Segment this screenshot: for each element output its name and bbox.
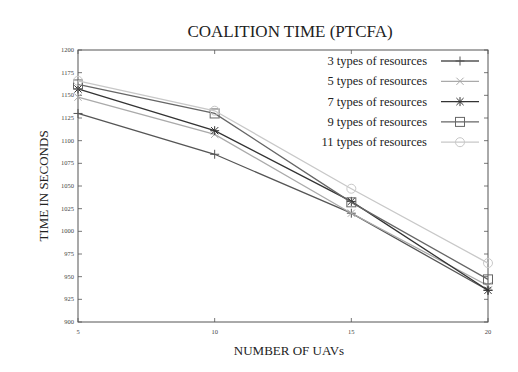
series-line	[74, 94, 491, 290]
plus-marker-icon	[456, 57, 465, 66]
y-tick-label: 1050	[61, 182, 74, 189]
series-line	[74, 80, 493, 284]
series-line	[74, 109, 493, 295]
series-line	[74, 76, 493, 267]
legend-item: 7 types of resources	[327, 95, 479, 109]
y-tick-label: 900	[64, 318, 74, 325]
y-tick-label: 925	[64, 295, 74, 302]
legend-label: 7 types of resources	[327, 95, 427, 109]
y-tick-label: 1175	[61, 69, 74, 76]
y-tick-label: 1125	[61, 114, 74, 121]
legend-item: 3 types of resources	[327, 54, 479, 68]
x-axis-ticks: 5101520	[76, 50, 491, 335]
y-axis-label: TIME IN SECONDS	[36, 130, 51, 241]
x-tick-label: 15	[348, 328, 355, 335]
y-tick-label: 1000	[61, 227, 74, 234]
line-chart: COALITION TIME (PTCFA) TIME IN SECONDS N…	[0, 0, 518, 372]
legend-label: 3 types of resources	[327, 54, 427, 68]
star-marker-icon	[456, 97, 465, 106]
x-tick-label: 5	[76, 328, 79, 335]
y-tick-label: 1100	[61, 137, 74, 144]
plot-frame	[78, 50, 488, 322]
legend-item: 5 types of resources	[327, 74, 479, 88]
chart-title: COALITION TIME (PTCFA)	[187, 22, 392, 41]
legend-label: 11 types of resources	[322, 135, 428, 149]
y-tick-label: 1150	[61, 91, 74, 98]
star-marker-icon	[484, 286, 493, 295]
legend-item: 11 types of resources	[322, 135, 479, 149]
y-tick-label: 1075	[61, 159, 74, 166]
data-series	[74, 76, 493, 294]
legend-item: 9 types of resources	[327, 115, 479, 129]
legend: 3 types of resources5 types of resources…	[322, 54, 479, 149]
x-axis-label: NUMBER OF UAVs	[234, 343, 344, 358]
plus-marker-icon	[74, 109, 83, 118]
y-tick-label: 950	[64, 273, 74, 280]
y-tick-label: 1025	[61, 205, 74, 212]
x-tick-label: 10	[211, 328, 218, 335]
legend-label: 5 types of resources	[327, 74, 427, 88]
y-tick-label: 1200	[61, 46, 74, 53]
legend-label: 9 types of resources	[327, 115, 427, 129]
x-tick-label: 20	[485, 328, 492, 335]
star-marker-icon	[210, 126, 219, 135]
series-line	[74, 84, 493, 294]
plus-marker-icon	[210, 150, 219, 159]
y-tick-label: 975	[64, 250, 74, 257]
